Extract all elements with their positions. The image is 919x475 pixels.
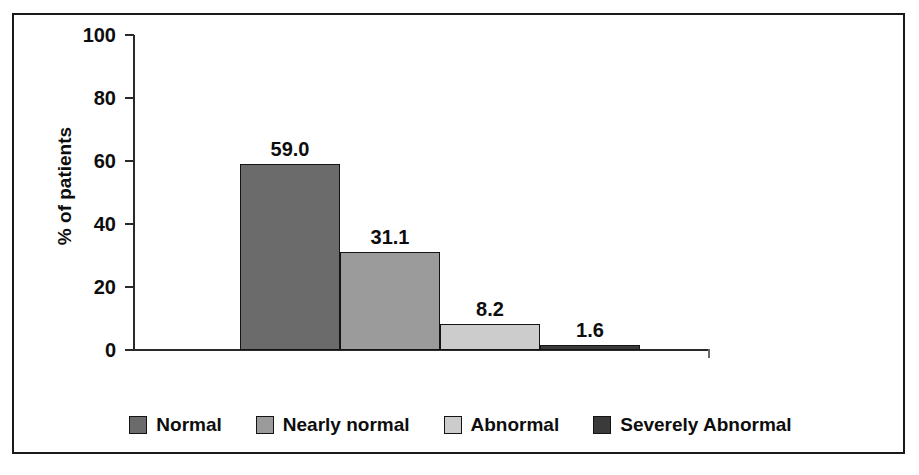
- y-axis-tick-mark: [125, 349, 134, 351]
- bar: [340, 252, 440, 350]
- y-axis-tick-label: 60: [26, 151, 116, 171]
- bar-value-label: 59.0: [240, 139, 340, 159]
- legend-item-label: Severely Abnormal: [620, 414, 791, 436]
- y-axis-tick-mark: [125, 97, 134, 99]
- legend-item[interactable]: Abnormal: [444, 414, 560, 436]
- x-axis-end-tick: [708, 349, 710, 358]
- y-axis-title: % of patients: [54, 86, 76, 286]
- bar-value-label: 1.6: [540, 320, 640, 340]
- y-axis-tick-label: 20: [26, 277, 116, 297]
- legend-item-label: Abnormal: [471, 414, 560, 436]
- chart-legend: NormalNearly normalAbnormalSeverely Abno…: [14, 410, 907, 440]
- legend-swatch-icon: [256, 416, 274, 434]
- y-axis-tick-mark: [125, 34, 134, 36]
- bar-value-label: 31.1: [340, 227, 440, 247]
- legend-swatch-icon: [593, 416, 611, 434]
- legend-swatch-icon: [129, 416, 147, 434]
- legend-swatch-icon: [444, 416, 462, 434]
- y-axis-tick-mark: [125, 223, 134, 225]
- y-axis-tick-mark: [125, 160, 134, 162]
- y-axis-tick-label: 80: [26, 88, 116, 108]
- plot-area: % of patients 020406080100 59.031.18.21.…: [14, 15, 907, 456]
- legend-item[interactable]: Normal: [129, 414, 221, 436]
- bar-value-label: 8.2: [440, 299, 540, 319]
- bar: [540, 345, 640, 350]
- y-axis-tick-mark: [125, 286, 134, 288]
- y-axis-tick-label: 0: [26, 340, 116, 360]
- y-axis-tick-label: 40: [26, 214, 116, 234]
- chart-frame: % of patients 020406080100 59.031.18.21.…: [12, 13, 905, 454]
- legend-item-label: Normal: [156, 414, 221, 436]
- y-axis-tick-label: 100: [26, 25, 116, 45]
- y-axis-line: [133, 35, 135, 351]
- legend-item-label: Nearly normal: [283, 414, 410, 436]
- legend-item[interactable]: Nearly normal: [256, 414, 410, 436]
- legend-item[interactable]: Severely Abnormal: [593, 414, 791, 436]
- bar: [240, 164, 340, 350]
- bar: [440, 324, 540, 350]
